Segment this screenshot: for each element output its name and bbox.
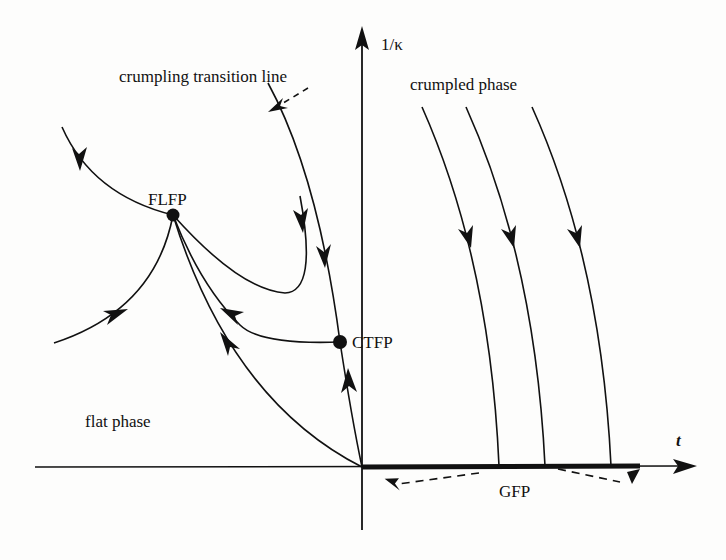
flow-arrow-icon — [72, 147, 87, 171]
gfp-label: GFP — [499, 483, 530, 500]
axes — [35, 26, 697, 530]
crumpled-phase-flows — [422, 107, 611, 466]
flat-phase-label: flat phase — [85, 413, 151, 430]
flow-arrow-up-icon — [341, 368, 357, 393]
flfp-fixed-point — [167, 209, 180, 222]
horizontal-axis-label: t — [676, 432, 681, 449]
crumpling-transition-line-label: crumpling transition line — [119, 68, 287, 85]
ctfp-label: CTFP — [352, 334, 393, 351]
flow-arrow-icon — [220, 332, 240, 356]
transition-line-pointer — [268, 88, 308, 112]
crumpled-phase-label: crumpled phase — [410, 76, 517, 93]
flow-arrow-icon — [458, 225, 473, 248]
flow-arrow-icon — [220, 308, 244, 325]
ctfp-fixed-point — [333, 335, 347, 349]
flow-diagram-graphics — [0, 0, 726, 560]
rg-flow-diagram: 1/κ crumpling transition line crumpled p… — [0, 0, 726, 560]
gfp-fixed-line — [362, 466, 640, 467]
vertical-axis-label: 1/κ — [381, 36, 403, 53]
flfp-label: FLFP — [148, 191, 187, 208]
